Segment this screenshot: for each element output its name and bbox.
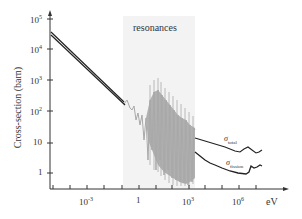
x-tick-label: 103 <box>182 196 194 207</box>
x-tick-base: 10 <box>232 197 241 207</box>
y-tick-exp: 5 <box>39 14 42 20</box>
resonances-label: resonances <box>133 22 177 33</box>
y-axis-arrow <box>48 10 52 16</box>
sigma-subscript: total <box>228 140 237 145</box>
y-tick-base: 10 <box>30 15 39 25</box>
x-tick-exp: 3 <box>191 196 194 202</box>
y-tick-label: 10 <box>33 138 42 147</box>
sigma-fission-label: σfission <box>226 158 243 169</box>
y-tick-exp: 3 <box>39 75 42 81</box>
y-tick-label: 102 <box>30 106 42 117</box>
y-tick-label: 105 <box>30 14 42 25</box>
sigma-subscript: fission <box>230 164 243 169</box>
x-tick-exp: -3 <box>88 196 93 202</box>
y-tick-label: 104 <box>30 44 42 55</box>
y-tick-base: 10 <box>33 137 42 147</box>
y-tick-base: 10 <box>30 107 39 117</box>
y-tick-base: 10 <box>30 76 39 86</box>
cross-section-chart: 105 104 103 102 10 1 10-3 1 103 106 eV C… <box>0 0 302 219</box>
x-tick-label: 106 <box>232 196 244 207</box>
y-tick-label: 1 <box>38 168 43 177</box>
y-tick-exp: 2 <box>39 106 42 112</box>
y-tick-exp: 4 <box>39 44 42 50</box>
x-tick-base: 1 <box>136 195 141 205</box>
fission-low-energy-line <box>51 35 125 105</box>
y-tick-base: 10 <box>30 45 39 55</box>
total-low-energy-line <box>51 32 124 102</box>
x-axis-unit: eV <box>266 196 278 207</box>
x-tick-base: 10 <box>79 197 88 207</box>
y-tick-base: 1 <box>38 167 43 177</box>
y-axis-label: Cross-section (barn) <box>12 53 23 163</box>
x-tick-label: 10-3 <box>79 196 93 207</box>
x-tick-exp: 6 <box>241 196 244 202</box>
x-tick-base: 10 <box>182 197 191 207</box>
x-tick-label: 1 <box>136 196 141 205</box>
y-tick-label: 103 <box>30 75 42 86</box>
sigma-total-label: σtotal <box>224 134 237 145</box>
x-axis-arrow <box>283 187 289 191</box>
